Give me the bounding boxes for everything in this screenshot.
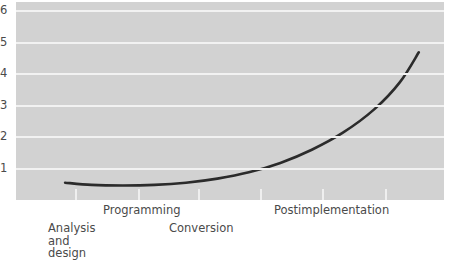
y-axis: 654321	[0, 0, 16, 200]
y-tick-label-4: 4	[0, 68, 13, 80]
y-tick-label-3: 3	[0, 100, 13, 112]
plot-area	[16, 2, 444, 200]
x-tick-3	[198, 189, 200, 200]
gridline-y-6	[16, 10, 444, 12]
y-tick-label-2: 2	[0, 131, 13, 143]
x-tick-6	[385, 189, 387, 200]
x-tick-1	[75, 189, 77, 200]
x-axis: Analysis and designProgrammingConversion…	[0, 200, 449, 261]
cost-to-fix-error-chart: 654321 Analysis and designProgrammingCon…	[0, 0, 449, 261]
x-category-label-programming: Programming	[103, 204, 181, 217]
x-tick-5	[322, 189, 324, 200]
x-category-label-conversion: Conversion	[169, 222, 233, 235]
gridline-y-1	[16, 168, 444, 170]
gridline-y-2	[16, 136, 444, 138]
series-line-relative-cost	[16, 2, 444, 200]
x-tick-4	[260, 189, 262, 200]
gridline-y-4	[16, 73, 444, 75]
gridline-y-3	[16, 105, 444, 107]
gridline-y-5	[16, 42, 444, 44]
x-category-label-postimplementation: Postimplementation	[274, 204, 389, 217]
y-tick-label-5: 5	[0, 37, 13, 49]
x-tick-2	[138, 189, 140, 200]
y-tick-label-1: 1	[0, 163, 13, 175]
x-category-label-analysis: Analysis and design	[48, 222, 95, 260]
y-tick-label-6: 6	[0, 5, 13, 17]
